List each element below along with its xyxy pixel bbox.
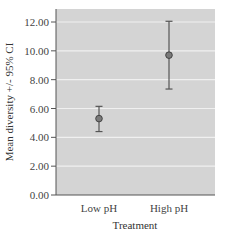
y-tick-label: 12.00	[24, 16, 49, 28]
x-axis: Low pHHigh pH	[56, 195, 215, 214]
y-tick-label: 4.00	[30, 131, 50, 143]
y-tick-label: 10.00	[24, 45, 49, 57]
plot-area	[56, 9, 215, 195]
y-tick-label: 6.00	[30, 103, 50, 115]
y-axis: 0.002.004.006.008.0010.0012.00	[24, 9, 56, 201]
mean-marker	[96, 115, 103, 122]
y-tick-label: 0.00	[30, 189, 50, 201]
y-axis-title: Mean diversity +/- 95% CI	[3, 42, 15, 161]
x-tick-label: High pH	[150, 202, 188, 214]
mean-marker	[166, 52, 173, 59]
x-tick-label: Low pH	[81, 202, 117, 214]
errorbar-chart: 0.002.004.006.008.0010.0012.00 Low pHHig…	[0, 0, 225, 240]
y-tick-label: 2.00	[30, 160, 50, 172]
y-tick-label: 8.00	[30, 74, 50, 86]
x-axis-title: Treatment	[113, 219, 158, 231]
